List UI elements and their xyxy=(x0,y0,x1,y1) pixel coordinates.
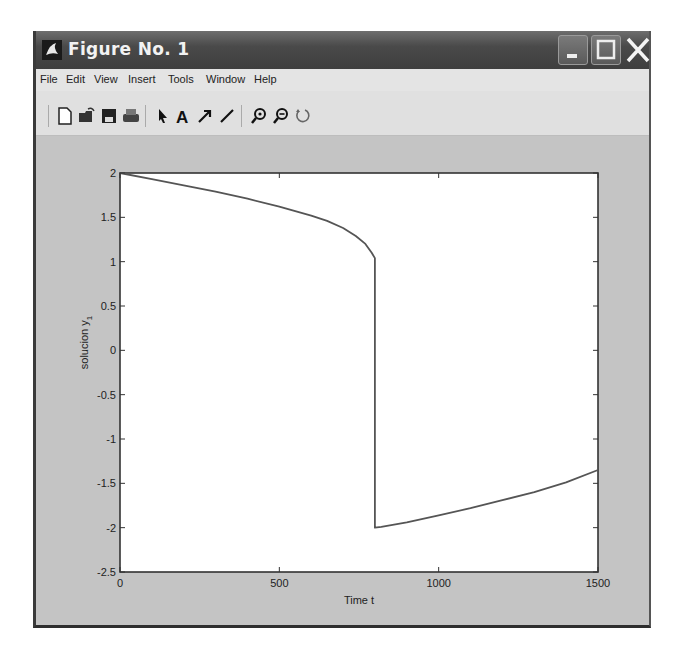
menu-tools[interactable]: Tools xyxy=(168,73,194,85)
y-tick-label: 0 xyxy=(110,344,116,356)
minimize-button[interactable] xyxy=(558,35,588,65)
y-tick-label: -1.5 xyxy=(97,477,116,489)
print-button[interactable] xyxy=(122,107,140,125)
x-tick-label: 1500 xyxy=(586,577,610,589)
insert-text-button[interactable]: A xyxy=(174,107,192,125)
x-tick-label: 1000 xyxy=(426,577,450,589)
y-tick-label: 0.5 xyxy=(101,300,116,312)
save-button[interactable] xyxy=(100,107,118,125)
rotate-icon xyxy=(294,107,312,125)
minimize-icon xyxy=(559,36,587,64)
insert-arrow-button[interactable] xyxy=(196,107,214,125)
arrow-pointer-icon xyxy=(154,107,172,125)
arrow-icon xyxy=(196,107,214,125)
new-figure-button[interactable] xyxy=(56,107,74,125)
menu-file[interactable]: File xyxy=(40,73,58,85)
toolbar-separator xyxy=(145,105,146,127)
x-tick-label: 500 xyxy=(270,577,288,589)
x-tick-label: 0 xyxy=(117,577,123,589)
figure-window: Figure No. 1 File Edit View Insert Tools… xyxy=(33,31,651,628)
y-tick-label: -2.5 xyxy=(97,566,116,578)
zoom-in-button[interactable] xyxy=(250,107,268,125)
x-axis-label: Time t xyxy=(344,594,374,606)
y-tick-label: -2 xyxy=(106,522,116,534)
save-disk-icon xyxy=(100,107,118,125)
matlab-figure-icon xyxy=(42,40,62,60)
menu-window[interactable]: Window xyxy=(206,73,245,85)
y-tick-label: 1.5 xyxy=(101,211,116,223)
plot-area xyxy=(120,173,598,572)
line-chart: 05001000150021.510.50-0.5-1-1.5-2-2.5Tim… xyxy=(36,136,649,625)
line-icon xyxy=(218,107,236,125)
zoom-out-button[interactable] xyxy=(272,107,290,125)
y-tick-label: -0.5 xyxy=(97,389,116,401)
new-document-icon xyxy=(56,107,74,125)
figure-toolbar: A xyxy=(36,91,649,136)
rotate-3d-button[interactable] xyxy=(294,107,312,125)
menu-help[interactable]: Help xyxy=(254,73,277,85)
insert-line-button[interactable] xyxy=(218,107,236,125)
menu-view[interactable]: View xyxy=(94,73,118,85)
toolbar-separator xyxy=(241,105,242,127)
close-icon xyxy=(624,35,652,65)
y-tick-label: -1 xyxy=(106,433,116,445)
menu-edit[interactable]: Edit xyxy=(66,73,85,85)
title-bar[interactable]: Figure No. 1 xyxy=(36,31,649,69)
menu-bar: File Edit View Insert Tools Window Help xyxy=(36,69,649,91)
edit-plot-button[interactable] xyxy=(154,107,172,125)
zoom-in-icon xyxy=(250,107,268,125)
open-file-button[interactable] xyxy=(78,107,96,125)
svg-text:A: A xyxy=(176,108,188,125)
y-tick-label: 2 xyxy=(110,167,116,179)
menu-insert[interactable]: Insert xyxy=(128,73,156,85)
maximize-icon xyxy=(592,36,620,64)
zoom-out-icon xyxy=(272,107,290,125)
toolbar-grip xyxy=(48,105,49,127)
y-axis-label: solucion y1 xyxy=(78,315,94,369)
printer-icon xyxy=(122,107,140,125)
close-button[interactable] xyxy=(624,35,652,65)
figure-canvas: 05001000150021.510.50-0.5-1-1.5-2-2.5Tim… xyxy=(36,136,649,625)
maximize-button[interactable] xyxy=(591,35,621,65)
window-title: Figure No. 1 xyxy=(68,39,189,59)
text-a-icon: A xyxy=(174,107,192,125)
y-tick-label: 1 xyxy=(110,256,116,268)
open-folder-icon xyxy=(78,107,96,125)
